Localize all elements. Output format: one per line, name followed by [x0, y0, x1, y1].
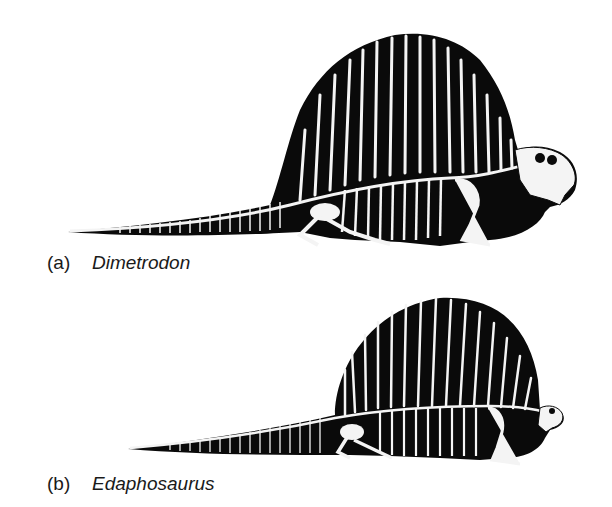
figure-edaphosaurus: (b)Edaphosaurus: [0, 290, 612, 507]
caption-letter: (b): [47, 473, 92, 495]
caption-letter: (a): [47, 252, 92, 274]
caption-a: (a)Dimetrodon: [47, 252, 190, 274]
caption-b: (b)Edaphosaurus: [47, 473, 215, 495]
species-name: Edaphosaurus: [92, 473, 215, 494]
species-name: Dimetrodon: [92, 252, 190, 273]
dimetrodon-skeleton-illustration: [0, 0, 612, 290]
figure-dimetrodon: (a)Dimetrodon: [0, 0, 612, 290]
